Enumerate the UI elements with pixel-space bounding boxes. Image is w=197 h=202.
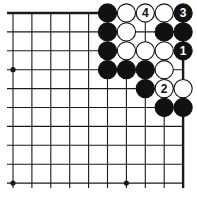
black-stone xyxy=(136,80,154,98)
black-stone xyxy=(155,98,173,116)
black-stone xyxy=(155,23,173,41)
black-stone xyxy=(117,61,135,79)
white-stone xyxy=(117,42,135,60)
black-stone-3: 3 xyxy=(174,4,192,22)
go-board: 4312 xyxy=(0,0,197,202)
black-stone-1: 1 xyxy=(174,42,192,60)
white-stone xyxy=(174,80,192,98)
black-stone xyxy=(136,61,154,79)
black-stone xyxy=(98,42,116,60)
board-grid xyxy=(7,13,183,188)
move-number: 1 xyxy=(180,44,187,58)
star-point xyxy=(10,181,15,186)
white-stone xyxy=(136,42,154,60)
star-point xyxy=(124,181,129,186)
black-stone xyxy=(174,23,192,41)
black-stone xyxy=(98,4,116,22)
white-stone xyxy=(117,4,135,22)
white-stone xyxy=(155,42,173,60)
move-number: 3 xyxy=(180,6,187,20)
black-stone xyxy=(174,98,192,116)
white-stone-4: 4 xyxy=(136,4,154,22)
white-stone xyxy=(155,4,173,22)
move-number: 2 xyxy=(161,82,168,96)
white-stone-2: 2 xyxy=(155,80,173,98)
black-stone xyxy=(98,23,116,41)
white-stone xyxy=(117,23,135,41)
white-stone xyxy=(155,61,173,79)
move-number: 4 xyxy=(142,6,149,20)
star-point xyxy=(10,67,15,72)
black-stone xyxy=(98,61,116,79)
